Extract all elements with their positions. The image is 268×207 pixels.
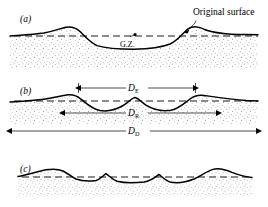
dim-DE-subscript: E xyxy=(135,87,139,94)
dim-DR-symbol: D xyxy=(127,108,135,118)
crater-profile-figure: (a) Original surface G.Z. DE xyxy=(0,0,268,207)
dim-DD-subscript: D xyxy=(135,130,140,137)
panel-b-label: (b) xyxy=(20,86,31,97)
panel-c-label: (c) xyxy=(20,164,31,175)
panel-a-label: (a) xyxy=(20,14,31,25)
dim-DE-symbol: D xyxy=(127,83,135,93)
figure-root: (a) Original surface G.Z. DE xyxy=(0,0,268,207)
dim-DD-symbol: D xyxy=(127,126,135,136)
ground-zero-label: G.Z. xyxy=(120,40,135,49)
original-surface-label: Original surface xyxy=(193,7,254,17)
